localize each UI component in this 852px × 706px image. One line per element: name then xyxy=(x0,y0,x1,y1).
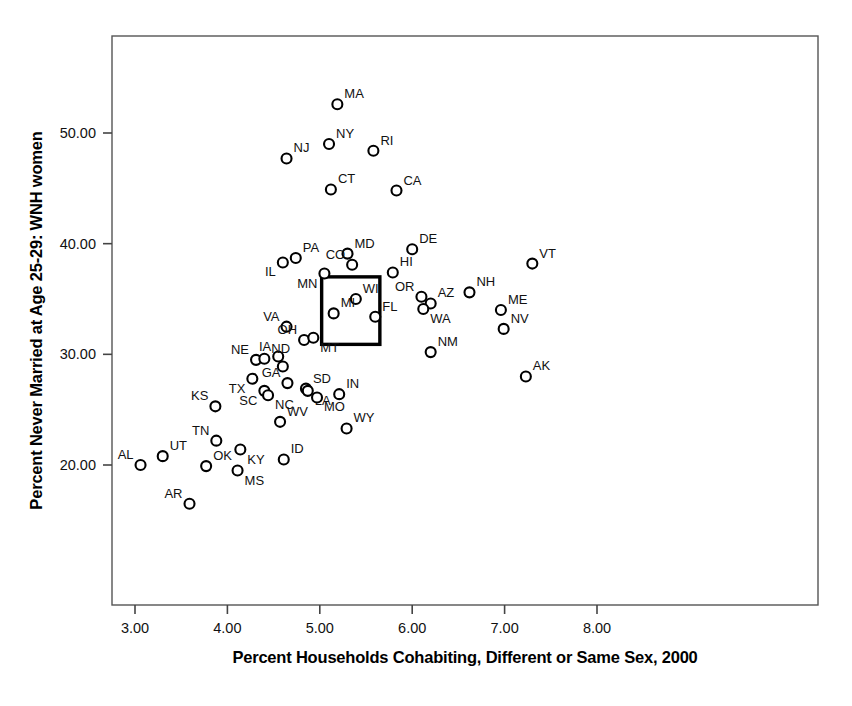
data-point-marker xyxy=(319,269,329,279)
data-point-label: WY xyxy=(354,410,375,425)
data-point-marker xyxy=(303,386,313,396)
data-point: TN xyxy=(192,423,221,446)
data-point-label: VT xyxy=(539,246,556,261)
data-point: AZ xyxy=(426,285,455,308)
data-point-marker xyxy=(391,186,401,196)
data-point-marker xyxy=(370,312,380,322)
data-point: OR xyxy=(395,279,427,302)
data-point: DE xyxy=(407,231,437,254)
data-point: NM xyxy=(426,334,458,357)
chart-canvas: 3.004.005.006.007.008.0020.0030.0040.005… xyxy=(0,0,852,706)
data-point-marker xyxy=(233,466,243,476)
data-point-label: AZ xyxy=(438,285,455,300)
data-point-label: SD xyxy=(313,371,331,386)
data-point: CT xyxy=(326,171,355,194)
data-point: NY xyxy=(324,126,354,149)
data-point-marker xyxy=(275,417,285,427)
data-point: ID xyxy=(279,441,304,464)
data-point-label: IL xyxy=(265,264,276,279)
data-point-marker xyxy=(136,460,146,470)
data-point-label: NM xyxy=(438,334,458,349)
data-point: AR xyxy=(164,486,194,509)
data-point-marker xyxy=(334,389,344,399)
data-point-label: AK xyxy=(533,358,551,373)
data-point: FL xyxy=(370,299,397,322)
data-point: NE xyxy=(231,342,261,365)
data-point: PA xyxy=(291,240,320,263)
data-point-label: SC xyxy=(239,393,257,408)
data-point-marker xyxy=(324,139,334,149)
data-point-label: NY xyxy=(336,126,354,141)
data-point: NJ xyxy=(282,140,310,163)
data-points-layer: MANYRINJCTCADEMDPAILVTCOHIMNNHORWIAZMEMI… xyxy=(118,86,556,509)
data-point-marker xyxy=(308,333,318,343)
data-point-label: MT xyxy=(320,340,339,355)
data-point: MA xyxy=(332,86,364,109)
data-point-label: TN xyxy=(192,423,209,438)
data-point-marker xyxy=(279,454,289,464)
data-point-label: KS xyxy=(191,388,209,403)
data-point: MN xyxy=(297,269,329,291)
data-point-label: OR xyxy=(395,279,415,294)
data-point-label: NH xyxy=(476,274,495,289)
data-point-label: OH xyxy=(278,322,298,337)
data-point-label: MN xyxy=(297,276,317,291)
data-point-label: CT xyxy=(338,171,355,186)
data-point: OK xyxy=(201,448,232,471)
data-point-label: MO xyxy=(324,399,345,414)
data-point: MI xyxy=(329,295,355,318)
x-axis-title: Percent Households Cohabiting, Different… xyxy=(232,648,697,666)
data-point-label: ND xyxy=(271,341,290,356)
data-point-label: CO xyxy=(326,247,346,262)
data-point-label: IA xyxy=(259,339,272,354)
data-point-marker xyxy=(521,371,531,381)
data-point-marker xyxy=(418,304,428,314)
data-point-label: IN xyxy=(346,376,359,391)
axis-titles-layer: Percent Households Cohabiting, Different… xyxy=(27,131,698,666)
x-axis-tick-label: 5.00 xyxy=(306,620,334,636)
data-point: MS xyxy=(233,466,265,488)
data-point-marker xyxy=(347,260,357,270)
data-point-marker xyxy=(326,184,336,194)
data-point-label: ID xyxy=(291,441,304,456)
data-point-label: MI xyxy=(341,295,355,310)
data-point-label: KY xyxy=(247,452,265,467)
data-point-marker xyxy=(527,259,537,269)
data-point-marker xyxy=(211,436,221,446)
data-point-marker xyxy=(282,378,292,388)
data-point-marker xyxy=(407,244,417,254)
data-point: CA xyxy=(391,173,421,196)
data-point-label: RI xyxy=(380,133,393,148)
data-point-marker xyxy=(201,461,211,471)
data-point: KS xyxy=(191,388,220,411)
data-point: UT xyxy=(158,438,187,461)
y-axis-tick-label: 40.00 xyxy=(60,236,96,252)
data-point-label: FL xyxy=(382,299,397,314)
data-point-label: UT xyxy=(170,438,187,453)
data-point-marker xyxy=(282,153,292,163)
x-axis-tick-label: 3.00 xyxy=(121,620,149,636)
data-point: KY xyxy=(235,445,265,467)
data-point-label: OK xyxy=(213,448,232,463)
data-point-label: WV xyxy=(287,404,308,419)
data-point-marker xyxy=(158,451,168,461)
data-point-label: DE xyxy=(419,231,437,246)
data-point-marker xyxy=(210,401,220,411)
data-point: RI xyxy=(368,133,393,156)
data-point-marker xyxy=(278,257,288,267)
data-point-marker xyxy=(388,267,398,277)
data-point-label: GA xyxy=(262,365,281,380)
data-point-marker xyxy=(332,99,342,109)
data-point: HI xyxy=(388,254,413,277)
data-point: MT xyxy=(308,333,339,355)
x-axis-tick-label: 7.00 xyxy=(490,620,518,636)
x-axis-tick-label: 6.00 xyxy=(398,620,426,636)
data-point-label: WI xyxy=(363,281,379,296)
data-point-label: NJ xyxy=(294,140,310,155)
data-point-marker xyxy=(329,308,339,318)
data-point: IL xyxy=(265,257,288,279)
data-point: AL xyxy=(118,447,146,470)
y-axis-tick-label: 20.00 xyxy=(60,457,96,473)
data-point-label: WA xyxy=(430,311,451,326)
data-point-marker xyxy=(291,253,301,263)
